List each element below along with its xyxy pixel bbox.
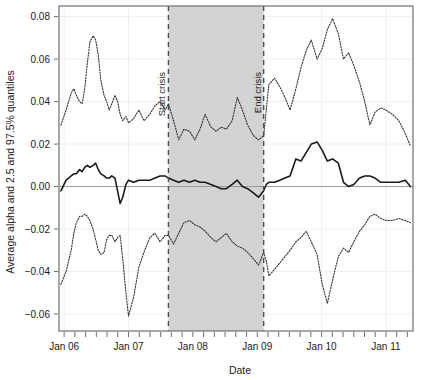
x-tick-label-4: Jan 10 (307, 341, 337, 352)
x-tick-label-1: Jan 07 (113, 341, 143, 352)
crisis-annotation-label-0: Start crisis (156, 72, 167, 117)
crisis-annotation-label-1: End crisis (252, 72, 263, 113)
y-tick-label-2: 0.04 (31, 96, 51, 107)
crisis-shaded-region (168, 6, 263, 331)
time-series-chart: Start crisisEnd crisis Jan 06Jan 07Jan 0… (0, 0, 423, 380)
y-tick-label-5: −0.02 (25, 224, 51, 235)
crisis-period-band (168, 6, 263, 331)
y-tick-label-7: −0.06 (25, 309, 51, 320)
y-tick-label-6: −0.04 (25, 266, 51, 277)
x-tick-label-3: Jan 09 (242, 341, 272, 352)
y-axis-title: Average alpha and 2.5 and 97.5% quantile… (4, 70, 16, 274)
x-tick-label-5: Jan 11 (371, 341, 401, 352)
x-tick-label-2: Jan 08 (178, 341, 208, 352)
y-tick-label-0: 0.08 (31, 11, 51, 22)
x-tick-label-0: Jan 06 (49, 341, 79, 352)
y-tick-label-1: 0.06 (31, 54, 51, 65)
chart-figure: Start crisisEnd crisis Jan 06Jan 07Jan 0… (0, 0, 423, 380)
y-tick-label-3: 0.02 (31, 139, 51, 150)
y-tick-label-4: 0.00 (31, 181, 51, 192)
x-axis-title: Date (229, 364, 251, 376)
